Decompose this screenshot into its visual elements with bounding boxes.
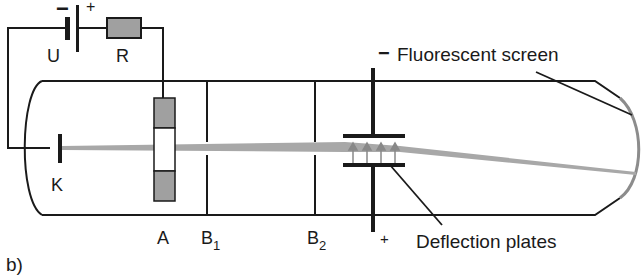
battery-minus-label: − [56,0,69,21]
plate-minus-label: − [378,42,390,64]
screen-label: Fluorescent screen [397,44,559,65]
anode-label: A [157,228,169,248]
plates-label: Deflection plates [416,231,556,252]
wire-to-anode [141,28,163,98]
cathode [58,134,62,163]
battery-positive-plate [76,5,79,52]
circuit [8,28,163,148]
panel-label: b) [6,254,23,275]
voltage-label: U [47,46,60,66]
aperture-b2-label: B2 [307,228,326,253]
screen-leader [536,72,632,115]
plate-plus-label: + [380,230,389,247]
electron-beam [62,142,636,175]
aperture-b1-label: B1 [201,228,220,253]
anode [154,98,175,201]
tube-top-edge [42,81,620,98]
tube-bottom-edge [42,198,620,215]
resistor [107,18,141,38]
crt-diagram: − + U R K A B1 B2 − + Fluorescent screen… [0,0,642,277]
battery-plus-label: + [86,0,95,15]
resistor-label: R [116,46,129,66]
cathode-label: K [51,175,63,195]
